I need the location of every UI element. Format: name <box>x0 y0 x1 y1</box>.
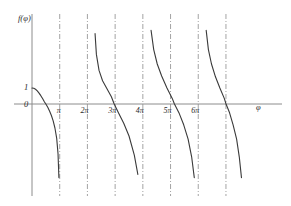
x-tick-label: 3π <box>108 107 116 115</box>
y-axis-label: f(φ) <box>18 14 31 23</box>
y-tick-label: 0 <box>24 100 28 109</box>
plot-canvas <box>0 0 291 206</box>
data-curve <box>32 88 59 178</box>
x-tick-label: 6π <box>191 107 199 115</box>
figure-container: f(φ) φ π2π3π4π5π6π 10 <box>0 0 291 206</box>
x-tick-label: 5π <box>164 107 172 115</box>
asymptote-lines <box>60 14 226 196</box>
x-tick-label: π <box>57 107 61 115</box>
x-axis-label: φ <box>256 103 261 112</box>
y-tick-label: 1 <box>24 83 28 92</box>
x-tick-label: 4π <box>136 107 144 115</box>
x-tick-label: 2π <box>80 107 88 115</box>
axis-lines <box>14 14 282 196</box>
